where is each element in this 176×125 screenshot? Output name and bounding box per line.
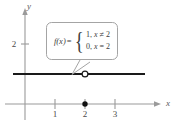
y-axis bbox=[22, 8, 27, 120]
open-circle-point bbox=[82, 71, 88, 77]
x-axis-label: x bbox=[166, 99, 170, 108]
x-tick-label-2: 2 bbox=[80, 110, 90, 119]
piecewise-function-figure: f(x) = { 1, x ≠ 2 0, x = 2 y x 2 1 bbox=[0, 0, 176, 125]
y-axis-label: y bbox=[27, 2, 31, 11]
callout-box bbox=[47, 23, 118, 75]
x-tick-label-1: 1 bbox=[50, 110, 60, 119]
x-tick-label-3: 3 bbox=[110, 110, 120, 119]
filled-circle-point bbox=[82, 101, 87, 106]
graph-canvas bbox=[0, 0, 176, 125]
y-tick-label-2: 2 bbox=[9, 40, 19, 49]
